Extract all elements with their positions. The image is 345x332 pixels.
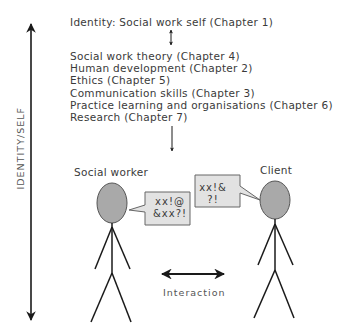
- social-worker-figure: [91, 183, 131, 322]
- topic-item: Ethics (Chapter 5): [70, 74, 333, 86]
- interaction-label: Interaction: [163, 287, 226, 299]
- identity-self-axis-label: IDENTITY/SELF: [15, 110, 26, 190]
- topic-list: Social work theory (Chapter 4) Human dev…: [70, 50, 333, 123]
- topic-item: Practice learning and organisations (Cha…: [70, 99, 333, 111]
- topic-item: Communication skills (Chapter 3): [70, 87, 333, 99]
- social-worker-speech-text: xx!@ &xx?!: [146, 196, 194, 220]
- social-worker-head: [97, 183, 127, 223]
- client-head: [260, 181, 290, 219]
- identity-heading: Identity: Social work self (Chapter 1): [70, 16, 273, 28]
- topic-item: Human development (Chapter 2): [70, 62, 333, 74]
- speech-line: ?!: [194, 194, 232, 206]
- social-worker-label: Social worker: [74, 166, 148, 178]
- client-figure: [254, 181, 294, 318]
- client-label: Client: [260, 164, 292, 176]
- topic-item: Research (Chapter 7): [70, 111, 333, 123]
- client-speech-text: xx!& ?!: [194, 182, 232, 206]
- speech-line: &xx?!: [146, 208, 194, 220]
- speech-line: xx!@: [146, 196, 194, 208]
- speech-line: xx!&: [194, 182, 232, 194]
- topic-item: Social work theory (Chapter 4): [70, 50, 333, 62]
